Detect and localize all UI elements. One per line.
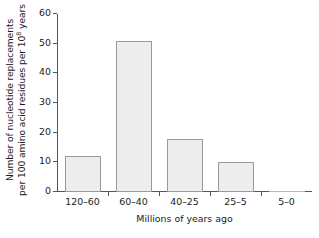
y-axis-title-line-2: per 100 amino acid residues per 108 year… — [17, 4, 26, 196]
bar — [65, 156, 101, 192]
bar — [218, 162, 254, 192]
y-axis-tick-label: 0 — [45, 185, 51, 196]
y-axis-title-line-1: Number of nucleotide replacements — [5, 19, 14, 181]
y-axis-tick-label: 10 — [39, 155, 51, 166]
y-axis-title-line-2-suffix: years — [16, 4, 27, 32]
bar — [116, 41, 152, 192]
x-axis-tick-label: 5–0 — [261, 196, 312, 208]
y-axis-title: Number of nucleotide replacements per 10… — [0, 0, 36, 200]
bar-series — [57, 14, 312, 192]
y-axis-tick-label: 50 — [39, 37, 51, 48]
y-axis-tick-label: 40 — [39, 66, 51, 77]
bar — [269, 191, 305, 192]
x-axis-tick-label: 60–40 — [108, 196, 159, 208]
y-axis-tick-label: 20 — [39, 126, 51, 137]
y-axis-title-line-2-text: per 100 amino acid residues per 10 — [16, 36, 27, 196]
x-axis-tick-label: 120–60 — [57, 196, 108, 208]
x-axis-tick-labels: 120–6060–4040–2525–55–0 — [57, 196, 312, 210]
bar — [167, 139, 203, 192]
x-axis-tick-label: 25–5 — [210, 196, 261, 208]
plot-area: 0102030405060 — [57, 14, 312, 192]
x-axis-title: Millions of years ago — [57, 213, 312, 224]
y-axis-tick-label: 60 — [39, 7, 51, 18]
x-axis-tick-label: 40–25 — [159, 196, 210, 208]
y-axis-title-exponent: 8 — [15, 32, 23, 36]
y-axis-tick-label: 30 — [39, 96, 51, 107]
bar-chart-figure: Number of nucleotide replacements per 10… — [0, 0, 319, 238]
